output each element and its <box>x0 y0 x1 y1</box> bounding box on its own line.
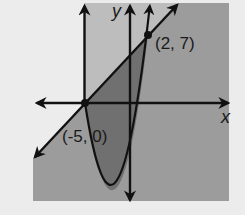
point-label-2-7: (2, 7) <box>155 34 195 53</box>
x-axis-label: x <box>220 107 231 127</box>
point-label-neg5-0: (-5, 0) <box>62 127 107 146</box>
point-2-7 <box>144 31 152 39</box>
inequality-graph: y x (-5, 0) (2, 7) <box>0 0 245 215</box>
point-neg5-0 <box>81 99 89 107</box>
y-axis-label: y <box>110 1 122 21</box>
